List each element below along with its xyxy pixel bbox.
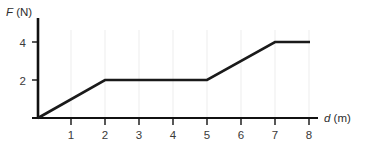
chart-plot-area: 1 2 3 4 5 6 7 8 2 4 F (N) d (m)	[0, 0, 376, 144]
y-tick-label-2: 2	[20, 75, 26, 87]
data-series-group	[38, 42, 310, 118]
x-tick-label-4: 4	[170, 129, 177, 141]
force-distance-chart: 1 2 3 4 5 6 7 8 2 4 F (N) d (m)	[0, 0, 376, 144]
y-axis-tick-labels-group: 2 4	[20, 37, 27, 87]
x-tick-label-7: 7	[272, 129, 278, 141]
x-tick-label-5: 5	[204, 129, 210, 141]
x-axis-tick-labels-group: 1 2 3 4 5 6 7 8	[68, 129, 312, 141]
x-tick-label-2: 2	[102, 129, 108, 141]
x-tick-label-8: 8	[306, 129, 312, 141]
y-tick-label-4: 4	[20, 37, 27, 49]
y-axis-unit: (N)	[16, 6, 32, 18]
x-tick-label-3: 3	[136, 129, 142, 141]
x-axis-title: d (m)	[324, 112, 351, 124]
y-axis-title: F (N)	[6, 6, 32, 18]
force-distance-line	[38, 42, 310, 118]
x-tick-label-1: 1	[68, 129, 74, 141]
x-tick-label-6: 6	[238, 129, 244, 141]
x-axis-unit: (m)	[334, 112, 351, 124]
